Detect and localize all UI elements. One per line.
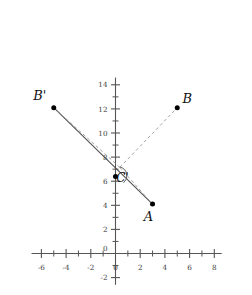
- point-marker-bp: [51, 105, 56, 110]
- y-tick-label: 10: [98, 129, 108, 138]
- y-tick-label: 2: [103, 225, 108, 234]
- c-to-b-dashed: [120, 108, 177, 168]
- y-tick-label: 4: [103, 201, 108, 210]
- point-label-a: A: [143, 209, 153, 224]
- y-tick-label: 12: [98, 105, 107, 114]
- x-tick-label: 0: [113, 263, 118, 272]
- x-tick-label: 8: [212, 263, 217, 272]
- x-tick-label: 2: [138, 263, 143, 272]
- x-tick-label: -6: [38, 263, 45, 272]
- c-to-bprime-dashed: [54, 108, 120, 168]
- x-tick-label: -4: [63, 263, 70, 272]
- y-tick-label: -2: [100, 273, 107, 282]
- point-label-bp: B': [32, 88, 46, 103]
- x-tick-label: 6: [187, 263, 192, 272]
- y-tick-label: 6: [103, 177, 108, 186]
- coordinate-plane-figure: -6-4-202468-224681012140ABB'C': [0, 0, 252, 295]
- x-tick-label: 4: [163, 263, 168, 272]
- point-marker-a: [150, 202, 155, 207]
- origin-label: 0: [103, 244, 108, 253]
- point-label-b: B: [181, 91, 192, 106]
- bprime-to-a-solid: [54, 108, 153, 204]
- point-marker-b: [175, 105, 180, 110]
- y-tick-label: 14: [98, 80, 108, 89]
- point-label-cp: C': [116, 171, 128, 185]
- x-tick-label: -2: [87, 263, 94, 272]
- coordinate-plot-svg: -6-4-202468-224681012140ABB'C': [0, 0, 252, 295]
